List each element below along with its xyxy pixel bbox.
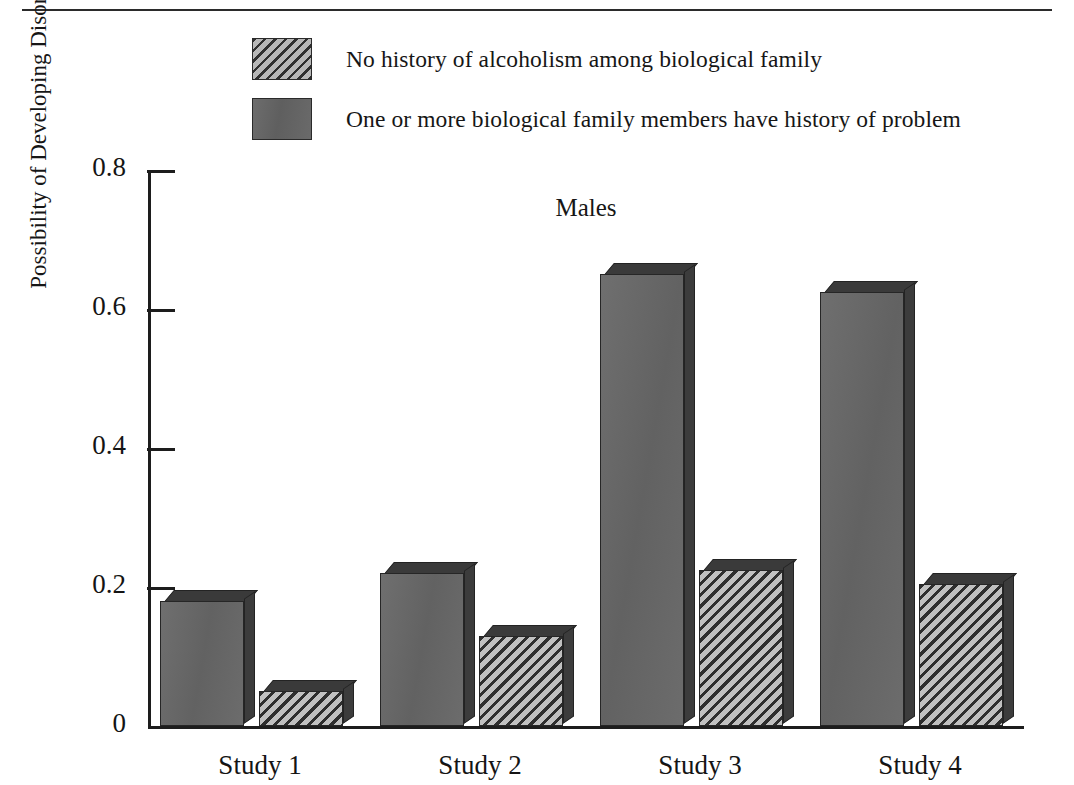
y-tick-label-0-8: 0.8	[52, 154, 126, 181]
bar-group-study-4	[814, 170, 1034, 726]
bar-side-face	[904, 282, 915, 723]
bar-front-face	[380, 573, 464, 726]
x-label-study-4: Study 4	[810, 750, 1030, 781]
bar-study-2-no-history	[479, 636, 563, 726]
bar-front-face	[479, 636, 563, 726]
bar-study-3-no-history	[699, 570, 783, 726]
bar-study-3-family-history	[600, 274, 684, 726]
bar-study-2-family-history	[380, 573, 464, 726]
y-tick-label-0-4: 0.4	[52, 432, 126, 459]
bar-study-4-family-history	[820, 292, 904, 726]
bar-side-face	[783, 560, 794, 723]
bar-group-study-1	[154, 170, 374, 726]
solid-grey-swatch-icon	[252, 98, 312, 140]
top-rule-divider	[22, 9, 1052, 11]
bar-side-face	[464, 563, 475, 723]
plot-area: Possibility of Developing Disorder Males…	[148, 170, 1024, 726]
x-label-study-3: Study 3	[590, 750, 810, 781]
y-tick-label-0-6: 0.6	[52, 293, 126, 320]
x-axis-labels: Study 1 Study 2 Study 3 Study 4	[148, 750, 1024, 785]
bar-group-study-2	[374, 170, 594, 726]
bar-front-face	[820, 292, 904, 726]
bar-study-1-family-history	[160, 601, 244, 726]
bar-side-face	[244, 591, 255, 723]
x-axis-line	[148, 726, 1024, 729]
bar-front-face	[259, 691, 343, 726]
y-axis-title: Possibility of Developing Disorder	[26, 0, 52, 338]
legend-item-no-history: No history of alcoholism among biologica…	[252, 36, 1032, 82]
bar-groups	[148, 170, 1024, 726]
bar-study-4-no-history	[919, 584, 1003, 726]
y-tick-label-0: 0	[52, 710, 126, 737]
x-label-study-2: Study 2	[370, 750, 590, 781]
bar-front-face	[919, 584, 1003, 726]
legend-item-family-history: One or more biological family members ha…	[252, 96, 1032, 142]
bar-front-face	[160, 601, 244, 726]
bar-group-study-3	[594, 170, 814, 726]
hatched-swatch-icon	[252, 38, 312, 80]
legend-label-no-history: No history of alcoholism among biologica…	[346, 46, 822, 73]
bar-front-face	[600, 274, 684, 726]
bar-front-face	[699, 570, 783, 726]
chart-legend: No history of alcoholism among biologica…	[252, 36, 1032, 156]
y-tick-label-0-2: 0.2	[52, 571, 126, 598]
bar-side-face	[1003, 574, 1014, 723]
bar-side-face	[563, 626, 574, 723]
legend-label-family-history: One or more biological family members ha…	[346, 106, 961, 133]
bar-side-face	[684, 264, 695, 723]
x-label-study-1: Study 1	[150, 750, 370, 781]
bar-study-1-no-history	[259, 691, 343, 726]
bar-chart-figure: No history of alcoholism among biologica…	[0, 0, 1074, 785]
bar-side-face	[343, 681, 354, 723]
